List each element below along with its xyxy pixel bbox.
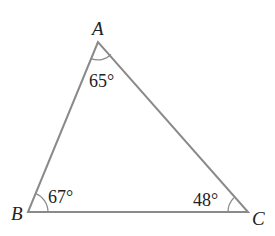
- triangle-diagram: A B C 65° 67° 48°: [0, 0, 275, 236]
- vertex-label-b: B: [11, 203, 23, 224]
- angle-arc-a: [91, 54, 111, 60]
- angle-value-a: 65°: [89, 71, 114, 91]
- angle-arc-b: [36, 194, 48, 213]
- angle-value-c: 48°: [193, 190, 218, 210]
- angle-arc-c: [228, 198, 234, 212]
- vertex-label-c: C: [252, 208, 265, 229]
- vertex-label-a: A: [90, 18, 104, 39]
- angle-value-b: 67°: [48, 187, 73, 207]
